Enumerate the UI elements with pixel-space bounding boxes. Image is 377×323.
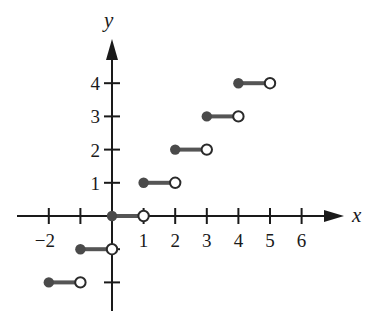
- step-segment: [170, 144, 212, 154]
- x-tick-label: 5: [265, 230, 275, 251]
- tick-labels: −21234561234: [35, 73, 307, 251]
- y-tick-label: 1: [91, 173, 101, 194]
- x-axis-arrow-icon: [324, 210, 344, 222]
- y-tick-label: 3: [91, 106, 101, 127]
- x-tick-label: 4: [234, 230, 244, 251]
- x-tick-label: 1: [139, 230, 149, 251]
- x-tick-label: 6: [297, 230, 307, 251]
- open-endpoint-icon: [75, 277, 85, 287]
- closed-endpoint-icon: [233, 78, 243, 88]
- closed-endpoint-icon: [170, 144, 180, 154]
- step-segment: [138, 178, 180, 188]
- closed-endpoint-icon: [202, 111, 212, 121]
- step-segment: [233, 78, 275, 88]
- closed-endpoint-icon: [138, 178, 148, 188]
- step-segment: [107, 211, 149, 221]
- open-endpoint-icon: [107, 244, 117, 254]
- y-axis-arrow-icon: [106, 39, 118, 60]
- open-endpoint-icon: [265, 78, 275, 88]
- y-tick-label: 4: [91, 73, 101, 94]
- step-segment: [44, 277, 86, 287]
- open-endpoint-icon: [233, 111, 243, 121]
- y-tick-label: 2: [91, 140, 101, 161]
- open-endpoint-icon: [202, 144, 212, 154]
- step-segment: [202, 111, 244, 121]
- closed-endpoint-icon: [107, 211, 117, 221]
- axes: [17, 39, 344, 311]
- x-tick-label: 2: [170, 230, 180, 251]
- open-endpoint-icon: [138, 211, 148, 221]
- x-tick-label: 3: [202, 230, 212, 251]
- open-endpoint-icon: [170, 178, 180, 188]
- step-segment: [75, 244, 117, 254]
- step-segments: [44, 78, 276, 288]
- closed-endpoint-icon: [44, 277, 54, 287]
- x-axis-label: x: [351, 203, 362, 227]
- step-function-chart: −21234561234 x y: [0, 0, 377, 323]
- closed-endpoint-icon: [75, 244, 85, 254]
- x-tick-label: −2: [35, 230, 55, 251]
- y-axis-label: y: [102, 8, 114, 32]
